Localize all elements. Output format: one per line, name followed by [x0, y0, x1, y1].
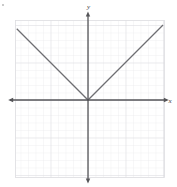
- graph-screenshot: x y: [0, 0, 177, 187]
- coordinate-plane-graph: x y: [0, 0, 177, 187]
- y-axis-label: y: [86, 3, 91, 11]
- x-axis-label: x: [167, 97, 172, 105]
- grid-background: [16, 21, 165, 178]
